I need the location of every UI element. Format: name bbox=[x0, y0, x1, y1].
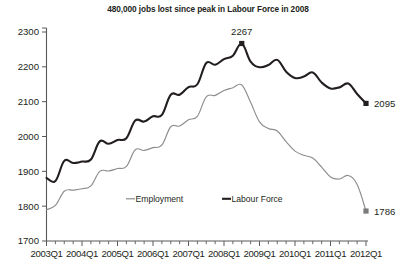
series-group bbox=[47, 43, 367, 211]
chart-container: 480,000 jobs lost since peak in Labour F… bbox=[0, 0, 416, 272]
x-axis-tick-label: 2009Q1 bbox=[243, 248, 275, 259]
y-axis-tick-label: 2200 bbox=[18, 61, 39, 72]
x-axis-tick-label: 2006Q1 bbox=[137, 248, 169, 259]
x-axis-tick-label: 2005Q1 bbox=[101, 248, 133, 259]
y-axis-tick-label: 2300 bbox=[18, 26, 39, 37]
legend-label: Employment bbox=[136, 194, 184, 204]
x-axis-tick-label: 2012Q1 bbox=[350, 248, 382, 259]
x-axis-tick-label: 2011Q1 bbox=[315, 248, 346, 259]
x-axis-tick-label: 2010Q1 bbox=[279, 248, 311, 259]
x-axis: 2003Q12004Q12005Q12006Q12007Q12008Q12009… bbox=[30, 241, 382, 259]
x-axis-tick-label: 2003Q1 bbox=[30, 248, 62, 259]
endpoint-labour-force: 2095 bbox=[374, 98, 395, 109]
x-axis-tick-label: 2008Q1 bbox=[208, 248, 240, 259]
x-axis-tick-label: 2004Q1 bbox=[66, 248, 98, 259]
data-point-marker bbox=[363, 101, 368, 106]
y-axis: 1700180019002000210022002300 bbox=[18, 26, 47, 246]
chart-plot: 1700180019002000210022002300 2003Q12004Q… bbox=[0, 0, 416, 272]
y-axis-tick-label: 1700 bbox=[18, 235, 39, 246]
series-line-employment bbox=[47, 84, 367, 211]
y-axis-tick-label: 2000 bbox=[18, 131, 39, 142]
annotation-group: 226720951786 bbox=[231, 26, 395, 216]
y-axis-tick-label: 1900 bbox=[18, 166, 39, 177]
x-axis-tick-label: 2007Q1 bbox=[172, 248, 204, 259]
endpoint-employment: 1786 bbox=[374, 206, 395, 217]
data-point-marker bbox=[363, 208, 368, 213]
legend-label: Labour Force bbox=[232, 194, 283, 204]
data-point-marker bbox=[239, 41, 244, 46]
series-line-labour-force bbox=[47, 43, 367, 182]
y-axis-tick-label: 2100 bbox=[18, 96, 39, 107]
y-axis-tick-label: 1800 bbox=[18, 201, 39, 212]
chart-legend: EmploymentLabour Force bbox=[126, 194, 283, 204]
peak-label: 2267 bbox=[231, 26, 252, 37]
